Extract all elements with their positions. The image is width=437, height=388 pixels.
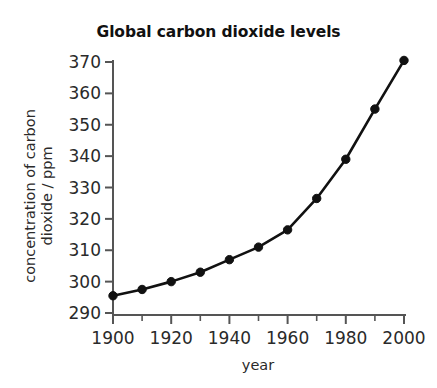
data-point xyxy=(313,194,321,202)
data-point xyxy=(371,105,379,113)
data-point xyxy=(109,292,117,300)
y-tick-label: 330 xyxy=(69,178,101,198)
data-point xyxy=(138,285,146,293)
x-tick-label: 1940 xyxy=(208,328,251,348)
data-point xyxy=(225,255,233,263)
y-tick-label: 310 xyxy=(69,240,101,260)
y-axis-title: concentration of carbon dioxide / ppm xyxy=(22,109,55,283)
x-tick-label: 1900 xyxy=(91,328,134,348)
x-axis-ticks: 190019201940196019802000 xyxy=(91,315,425,348)
data-point xyxy=(400,56,408,64)
y-tick-label: 350 xyxy=(69,115,101,135)
x-tick-label: 1980 xyxy=(324,328,367,348)
data-point xyxy=(196,268,204,276)
y-tick-label: 370 xyxy=(69,52,101,72)
y-axis-ticks: 370360350340330320310300290 xyxy=(69,52,113,323)
data-series-line xyxy=(113,60,404,295)
data-point xyxy=(342,155,350,163)
y-tick-label: 320 xyxy=(69,209,101,229)
y-axis-title-line1: concentration of carbon xyxy=(22,109,38,283)
y-tick-label: 290 xyxy=(69,303,101,323)
x-tick-label: 2000 xyxy=(382,328,425,348)
y-tick-label: 360 xyxy=(69,83,101,103)
x-axis-title: year xyxy=(242,357,274,373)
y-axis-title-line2: dioxide / ppm xyxy=(39,146,55,245)
x-tick-label: 1960 xyxy=(266,328,309,348)
y-tick-label: 300 xyxy=(69,272,101,292)
data-series-markers xyxy=(109,56,408,300)
chart-page: Global carbon dioxide levels concentrati… xyxy=(0,0,437,388)
data-point xyxy=(283,226,291,234)
line-chart: concentration of carbon dioxide / ppm ye… xyxy=(0,0,437,388)
x-tick-label: 1920 xyxy=(150,328,193,348)
y-tick-label: 340 xyxy=(69,146,101,166)
data-point xyxy=(254,243,262,251)
data-point xyxy=(167,277,175,285)
